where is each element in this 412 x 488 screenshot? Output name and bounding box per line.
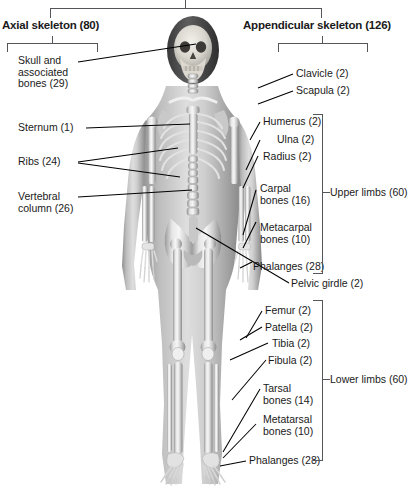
heading-axial-skeleton: Axial skeleton (80) xyxy=(2,20,99,32)
axial-sub-bracket xyxy=(7,43,98,52)
label-vertebral-column: Vertebral column (26) xyxy=(18,191,73,214)
axial-sub-bracket-tick xyxy=(52,36,53,44)
label-tibia: Tibia (2) xyxy=(272,338,310,350)
label-ribs: Ribs (24) xyxy=(18,156,61,168)
label-tarsal-bones: Tarsal bones (14) xyxy=(263,383,313,406)
label-carpal-bones: Carpal bones (16) xyxy=(260,183,310,206)
upper-limbs-bracket xyxy=(313,114,323,274)
skeleton-artwork xyxy=(118,14,268,488)
label-scapula: Scapula (2) xyxy=(296,85,350,97)
label-phalanges-foot: Phalanges (28) xyxy=(249,455,320,467)
label-pelvic-girdle: Pelvic girdle (2) xyxy=(291,278,363,290)
appendicular-sub-bracket xyxy=(278,43,368,52)
label-metacarpal-bones: Metacarpal bones (10) xyxy=(260,222,312,245)
appendicular-sub-bracket-tick xyxy=(322,36,323,44)
skeleton-diagram: Axial skeleton (80) Appendicular skeleto… xyxy=(0,0,412,488)
label-fibula: Fibula (2) xyxy=(268,355,312,367)
label-lower-limbs: Lower limbs (60) xyxy=(330,374,408,386)
label-radius: Radius (2) xyxy=(263,151,311,163)
master-bracket-tick xyxy=(185,0,186,9)
label-skull-and-associated-bones: Skull and associated bones (29) xyxy=(18,55,68,90)
label-femur: Femur (2) xyxy=(265,305,311,317)
label-patella: Patella (2) xyxy=(265,322,313,334)
label-sternum: Sternum (1) xyxy=(18,122,73,134)
label-ulna: Ulna (2) xyxy=(277,134,314,146)
upper-limbs-bracket-tick xyxy=(322,192,330,193)
label-clavicle: Clavicle (2) xyxy=(296,68,349,80)
label-metatarsal-bones: Metatarsal bones (10) xyxy=(263,414,313,437)
lower-limbs-bracket xyxy=(313,300,323,461)
lower-limbs-bracket-tick xyxy=(322,379,330,380)
skeleton-illustration xyxy=(118,14,268,488)
label-upper-limbs: Upper limbs (60) xyxy=(330,187,408,199)
